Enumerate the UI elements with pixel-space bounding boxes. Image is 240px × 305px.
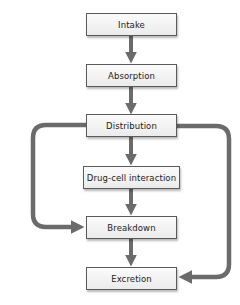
pharmacokinetics-flowchart: Intake Absorption Distribution Drug-cell… <box>0 0 240 305</box>
node-label: Intake <box>118 20 145 30</box>
node-breakdown: Breakdown <box>86 216 177 239</box>
node-label: Excretion <box>111 274 152 284</box>
node-label: Breakdown <box>107 223 155 233</box>
node-drug-cell-interaction: Drug-cell interaction <box>83 166 180 189</box>
node-intake: Intake <box>86 13 177 36</box>
arrow-distribution-to-breakdown-bypass <box>33 125 86 227</box>
arrow-distribution-to-excretion-bypass <box>176 126 229 277</box>
node-absorption: Absorption <box>86 64 177 87</box>
node-label: Distribution <box>106 121 157 131</box>
connector-layer <box>0 0 240 305</box>
node-distribution: Distribution <box>86 114 177 137</box>
node-label: Absorption <box>108 71 155 81</box>
node-excretion: Excretion <box>86 267 177 290</box>
node-label: Drug-cell interaction <box>87 173 176 183</box>
